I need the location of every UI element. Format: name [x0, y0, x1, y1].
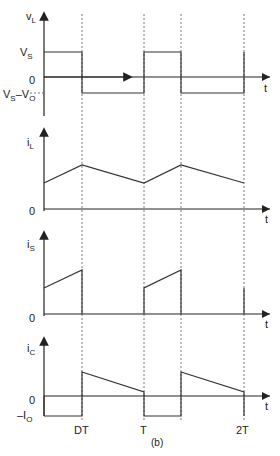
iL-t-arrow-icon	[262, 205, 270, 213]
panel-iS: iS 0 t	[27, 235, 270, 330]
iS-t-arrow-icon	[262, 310, 270, 318]
time-markers	[82, 14, 244, 422]
iL-axis-label: iL	[27, 136, 34, 151]
boost-converter-waveforms: vL VS 0 VS–VO t iL 0 t iS 0 t iC 0 –IO	[0, 0, 280, 456]
panel-iC: iC 0 –IO t	[17, 341, 270, 424]
vL-low-label: VS–VO	[3, 88, 35, 103]
panel-vL: vL VS 0 VS–VO t	[3, 10, 270, 116]
iC-t-arrow-icon	[262, 392, 270, 400]
iL-zero-label: 0	[29, 205, 35, 217]
vL-zero-label: 0	[29, 74, 35, 86]
vL-high-label: VS	[20, 46, 33, 61]
tick-dt: DT	[74, 424, 89, 436]
iC-zero-label: 0	[29, 394, 35, 406]
tick-t: T	[140, 424, 147, 436]
iC-t-label: t	[265, 400, 268, 412]
iS-waveform-1	[44, 270, 82, 314]
vL-t-label: t	[264, 82, 267, 94]
iC-neg-label: –IO	[17, 409, 32, 424]
iS-zero-label: 0	[29, 312, 35, 324]
vL-t-arrow-icon	[262, 73, 270, 81]
iC-axis-label: iC	[27, 342, 35, 357]
tick-2t: 2T	[236, 424, 249, 436]
panel-iL: iL 0 t	[27, 132, 270, 225]
vL-waveform	[44, 52, 244, 93]
iS-axis-label: iS	[27, 238, 35, 253]
iL-t-label: t	[265, 213, 268, 225]
vL-axis-label: vL	[26, 10, 37, 25]
iS-waveform-2	[144, 270, 181, 314]
figure-caption: (b)	[151, 437, 163, 448]
iS-t-label: t	[265, 318, 268, 330]
